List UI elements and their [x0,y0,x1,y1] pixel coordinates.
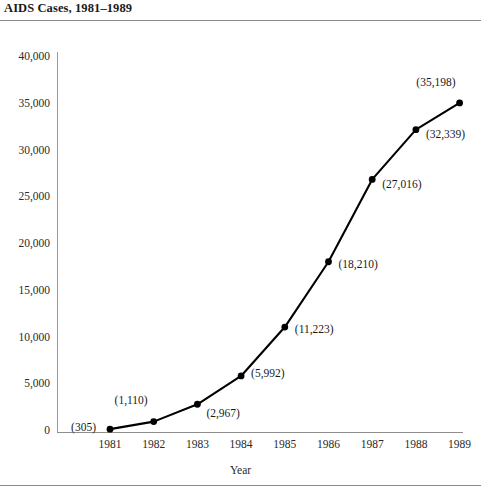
x-tick-label: 1981 [88,438,132,450]
data-point-label: (11,223) [295,323,334,335]
x-tick-label: 1986 [307,438,351,450]
x-axis-tick-labels: 198119821983198419851986198719881989 [0,0,481,492]
data-point-label: (27,016) [382,178,421,190]
data-point-label: (5,992) [251,367,285,379]
x-tick-label: 1985 [263,438,307,450]
x-tick-label: 1982 [132,438,176,450]
data-point-label: (18,210) [339,258,378,270]
data-point-label: (2,967) [206,407,240,419]
x-tick-label: 1984 [219,438,263,450]
x-tick-label: 1989 [438,438,481,450]
x-tick-label: 1983 [175,438,219,450]
data-point-label: (1,110) [115,394,148,406]
data-point-label: (35,198) [416,76,455,88]
data-point-label: (32,339) [426,128,465,140]
x-tick-label: 1987 [350,438,394,450]
x-axis-title: Year [0,464,481,476]
x-tick-label: 1988 [394,438,438,450]
data-point-label: (305) [71,421,96,433]
